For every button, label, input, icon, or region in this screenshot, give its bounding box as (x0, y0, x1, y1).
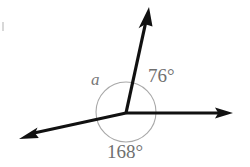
ray-right (126, 108, 233, 119)
scan-artifact-speck (2, 22, 4, 31)
angle-label-76: 76° (148, 66, 175, 85)
ray-up (126, 7, 153, 113)
ray-up-line (126, 21, 146, 113)
angle-diagram-figure: 76° 168° a (0, 0, 250, 167)
ray-left-down-line (34, 113, 126, 133)
angle-label-168: 168° (107, 142, 143, 161)
angle-label-a: a (91, 71, 100, 88)
ray-left-down (19, 113, 126, 139)
